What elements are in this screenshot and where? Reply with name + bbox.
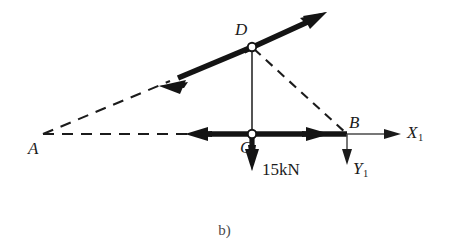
axis-label-x1-subscript: 1 (418, 132, 423, 143)
node-label-D: D (235, 21, 247, 38)
node-label-C: C (240, 139, 251, 156)
axis-label-x1-letter: X (407, 123, 417, 142)
node-label-A: A (28, 140, 38, 157)
load-magnitude-label: 15kN (262, 161, 300, 178)
member-DB-dashed (254, 49, 347, 134)
figure-caption: b) (0, 222, 449, 239)
free-body-diagram-figure: A B C D 15kN X1 Y1 b) (0, 0, 449, 251)
axis-label-y1-letter: Y (353, 159, 362, 178)
node-label-B: B (349, 114, 359, 131)
node-pin-C (248, 130, 256, 138)
axis-label-y1: Y1 (353, 160, 368, 179)
axis-label-x1: X1 (407, 124, 423, 143)
axis-label-y1-subscript: 1 (363, 168, 368, 179)
node-pin-D (248, 43, 256, 51)
force-vector-D-down-left (159, 47, 252, 94)
member-AD-dashed (43, 81, 170, 134)
axis-y1 (342, 134, 352, 165)
force-vector-C-to-B-right (252, 127, 347, 141)
truss-diagram-canvas (0, 0, 449, 251)
